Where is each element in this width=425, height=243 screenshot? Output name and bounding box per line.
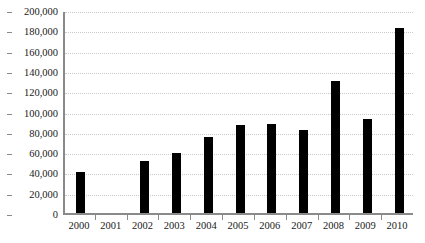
- y-axis-tick: [7, 93, 12, 94]
- x-axis-tick-label: 2007: [286, 221, 318, 232]
- x-axis-tick-label: 2002: [127, 221, 159, 232]
- bar: [363, 119, 372, 213]
- y-axis-tick: [7, 215, 12, 216]
- x-axis-tick-label: 2004: [190, 221, 222, 232]
- gridline: [65, 93, 413, 94]
- x-axis-tick-label: 2001: [95, 221, 127, 232]
- bar: [395, 28, 404, 213]
- bar: [140, 161, 149, 213]
- x-axis-tick-label: 2006: [254, 221, 286, 232]
- x-axis-tick-label: 2008: [318, 221, 350, 232]
- x-axis-tick: [158, 215, 159, 220]
- y-axis-tick: [7, 12, 12, 13]
- bar: [172, 153, 181, 213]
- bar: [331, 81, 340, 213]
- x-axis-tick-label: 2000: [63, 221, 95, 232]
- gridline: [65, 12, 413, 13]
- bar: [204, 137, 213, 213]
- gridline: [65, 114, 413, 115]
- y-axis-tick: [7, 195, 12, 196]
- x-axis-tick: [95, 215, 96, 220]
- x-axis-tick-label: 2003: [158, 221, 190, 232]
- x-axis-tick: [254, 215, 255, 220]
- y-axis-tick: [7, 174, 12, 175]
- x-axis-tick: [190, 215, 191, 220]
- bar: [236, 125, 245, 213]
- y-axis-tick: [7, 134, 12, 135]
- x-axis-tick: [127, 215, 128, 220]
- x-axis-tick-label: 2009: [349, 221, 381, 232]
- x-axis-tick: [381, 215, 382, 220]
- y-axis-tick: [7, 114, 12, 115]
- y-axis-tick: [7, 32, 12, 33]
- y-axis-tick: [7, 154, 12, 155]
- y-axis-tick: [7, 73, 12, 74]
- bar: [76, 172, 85, 213]
- gridline: [65, 53, 413, 54]
- y-axis-tick: [7, 53, 12, 54]
- bar-chart: 020,00040,00060,00080,000100,000120,0001…: [0, 0, 425, 243]
- x-axis-tick: [222, 215, 223, 220]
- bar: [299, 130, 308, 213]
- x-axis-tick-label: 2010: [381, 221, 413, 232]
- x-axis-tick: [349, 215, 350, 220]
- x-axis-tick: [318, 215, 319, 220]
- bar: [267, 124, 276, 213]
- x-axis-tick-label: 2005: [222, 221, 254, 232]
- gridline: [65, 73, 413, 74]
- plot-area: [63, 12, 413, 215]
- gridline: [65, 32, 413, 33]
- x-axis-tick: [286, 215, 287, 220]
